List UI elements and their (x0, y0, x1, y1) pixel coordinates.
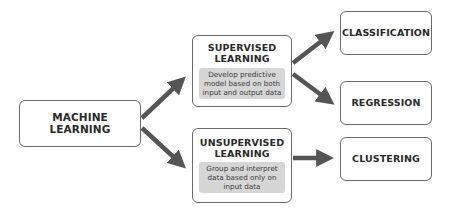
node-label: MACHINE LEARNING (20, 112, 140, 135)
arrow-ml-to-supervised (142, 82, 180, 118)
arrow-supervised-to-regression (293, 74, 328, 100)
node-classification: CLASSIFICATION (340, 11, 432, 55)
node-label: REGRESSION (351, 98, 420, 109)
node-supervised-learning: SUPERVISED LEARNING Develop predictive m… (192, 35, 292, 107)
node-title-line1: UNSUPERVISED (200, 138, 284, 149)
node-regression: REGRESSION (340, 81, 432, 125)
node-clustering: CLUSTERING (340, 137, 432, 181)
node-description: Develop predictive model based on both i… (199, 68, 285, 99)
arrow-ml-to-unsupervised (142, 128, 180, 163)
arrow-supervised-to-classification (293, 36, 328, 63)
node-label: CLASSIFICATION (342, 28, 430, 39)
node-machine-learning: MACHINE LEARNING (19, 100, 141, 147)
node-unsupervised-learning: UNSUPERVISED LEARNING Group and interpre… (192, 128, 292, 203)
node-description: Group and interpret data based only on i… (199, 162, 285, 193)
node-title-line2: LEARNING (214, 149, 269, 160)
node-title-line2: LEARNING (214, 54, 269, 65)
node-label: CLUSTERING (352, 154, 420, 165)
